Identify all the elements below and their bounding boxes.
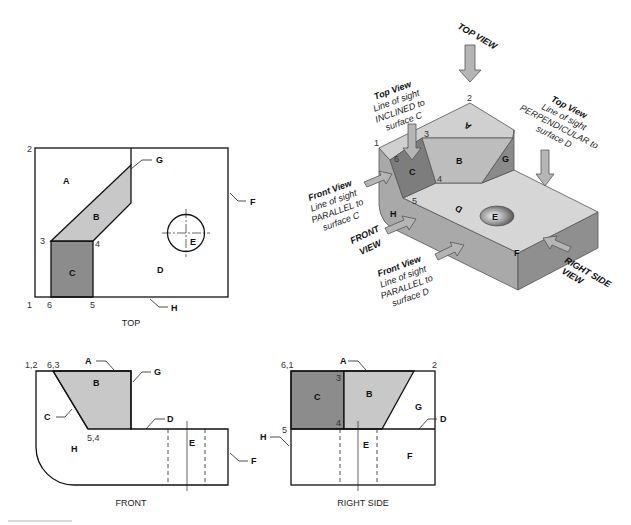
leader-f <box>230 193 246 201</box>
top-label-b: B <box>93 212 100 222</box>
note-parallel-c: Front View Line of sight PARALLEL to sur… <box>302 176 368 235</box>
top-point-2: 2 <box>27 144 32 154</box>
top-label-c: C <box>69 268 76 278</box>
leader-d-rs <box>419 419 437 429</box>
front-leader-f: F <box>251 456 257 466</box>
rs-view-caption: RIGHT SIDE <box>337 498 388 508</box>
rs-leader-d: D <box>440 414 447 424</box>
iso-point-1: 1 <box>374 138 379 148</box>
leader-f-front <box>230 453 248 461</box>
front-view-caption: FRONT <box>116 498 147 508</box>
leader-d-front <box>146 419 165 429</box>
rs-point-61: 6,1 <box>281 360 294 370</box>
perpendicular-arrow <box>536 150 554 186</box>
rs-leader-h: H <box>260 432 267 442</box>
iso-point-6: 6 <box>394 154 399 164</box>
top-leader-g: G <box>156 155 163 165</box>
top-view: A B C D E G F H 2 3 4 1 6 5 TOP <box>27 144 256 328</box>
leader-h <box>150 299 168 307</box>
leader-g <box>131 160 152 169</box>
iso-label-f: F <box>514 248 520 258</box>
rs-surface-b <box>344 371 414 429</box>
top-view-label: TOP VIEW <box>456 21 500 52</box>
leader-a-front <box>96 361 114 370</box>
front-point-54: 5,4 <box>87 433 100 443</box>
iso-label-e: E <box>492 212 498 222</box>
note-inclined-c: Top View Line of sight INCLINED to surfa… <box>366 77 430 135</box>
rs-point-2: 2 <box>432 360 437 370</box>
iso-label-g: G <box>502 154 509 164</box>
rs-point-4: 4 <box>336 418 341 428</box>
iso-label-c: C <box>409 167 416 177</box>
rs-label-b: B <box>366 389 373 399</box>
front-label-b: B <box>93 378 100 388</box>
top-label-a: A <box>63 176 70 186</box>
front-point-12: 1,2 <box>25 360 38 370</box>
front-label-h: H <box>71 444 78 454</box>
top-label-e: E <box>190 237 196 247</box>
rs-label-f: F <box>407 451 413 461</box>
rs-point-5: 5 <box>282 425 287 435</box>
leader-c-front <box>56 409 72 417</box>
leader-h-rs <box>270 437 289 446</box>
front-view: B H E A G C D F 1,2 6,3 5,4 FRONT <box>25 356 257 508</box>
top-point-6: 6 <box>47 300 52 310</box>
iso-label-b: B <box>456 156 463 166</box>
rs-leader-a: A <box>340 356 347 366</box>
top-leader-f: F <box>250 197 256 207</box>
iso-point-2: 2 <box>467 93 472 103</box>
top-point-4: 4 <box>95 239 100 249</box>
front-leader-c: C <box>44 412 51 422</box>
front-surface-b <box>53 371 131 429</box>
top-view-arrow <box>459 45 481 82</box>
top-view-caption: TOP <box>122 318 140 328</box>
leader-a-rs <box>348 361 366 370</box>
top-leader-h: H <box>171 303 178 313</box>
iso-point-4: 4 <box>437 174 442 184</box>
note-parallel-d: Front View Line of sight PARALLEL to sur… <box>372 252 438 311</box>
multiview-drawing: A B C D E G F H 2 3 4 1 6 5 TOP B H E A … <box>0 0 631 525</box>
front-leader-d: D <box>167 414 174 424</box>
top-point-1: 1 <box>27 300 32 310</box>
rs-label-e: E <box>363 440 369 450</box>
iso-label-h: H <box>390 209 397 219</box>
iso-point-3: 3 <box>424 129 429 139</box>
front-point-63: 6,3 <box>47 360 60 370</box>
top-point-5: 5 <box>90 300 95 310</box>
front-leader-g: G <box>154 367 161 377</box>
rs-label-g: G <box>415 402 422 412</box>
front-label-e: E <box>189 438 195 448</box>
front-leader-a: A <box>85 356 92 366</box>
rs-point-3: 3 <box>336 373 341 383</box>
note-perpendicular-d: Top View Line of sight PERPENDICULAR to … <box>513 83 610 161</box>
iso-point-5: 5 <box>412 196 417 206</box>
rs-label-c: C <box>314 392 321 402</box>
right-side-view: C B G E F A D H 6,1 2 3 4 5 RIGHT SIDE <box>260 356 447 508</box>
leader-g-front <box>133 372 151 382</box>
top-point-3: 3 <box>40 236 45 246</box>
top-label-d: D <box>157 265 164 275</box>
pictorial-view: A B C D E F G H 1 2 3 4 5 6 <box>302 21 613 311</box>
